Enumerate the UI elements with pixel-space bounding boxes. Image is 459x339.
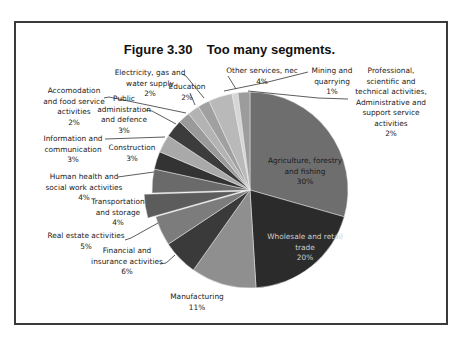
label-information: Information and communication 3% <box>40 134 106 166</box>
label-real-estate: Real estate activities 5% <box>44 231 128 252</box>
label-human-health: Human health and social work activities … <box>42 172 126 204</box>
label-wholesale: Wholesale and retail trade 20% <box>262 232 348 264</box>
label-other-services: Other services, nec 4% <box>224 66 300 87</box>
leader-line-information <box>105 137 165 139</box>
label-manufacturing: Manufacturing 11% <box>160 292 234 313</box>
pie-chart <box>0 0 459 339</box>
label-mining: Mining and quarrying 1% <box>308 66 356 98</box>
label-construction: Construction 3% <box>104 143 160 164</box>
label-professional: Professional, scientific and technical a… <box>350 66 432 140</box>
label-agriculture: Agriculture, forestry and fishing 30% <box>262 156 348 188</box>
label-education: Education 2% <box>166 82 208 103</box>
label-accomodation: Accomodation and food service activities… <box>40 86 108 128</box>
